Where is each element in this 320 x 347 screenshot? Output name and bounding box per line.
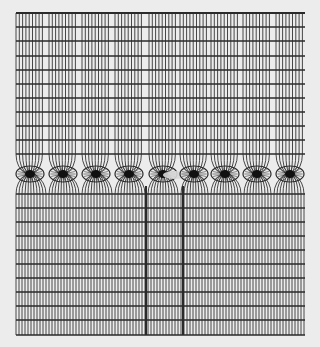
vortex-core-center <box>25 170 35 178</box>
vortex-core-center <box>189 170 199 178</box>
vortex-core-center <box>124 170 134 178</box>
vortex-core-center <box>91 170 101 178</box>
field-line-diagram <box>0 0 320 347</box>
vortex-core-center <box>252 170 262 178</box>
vortex-core-center <box>285 170 295 178</box>
diagram-canvas <box>0 0 320 347</box>
vortex-core-center <box>220 170 230 178</box>
vortex-core-center <box>58 170 68 178</box>
